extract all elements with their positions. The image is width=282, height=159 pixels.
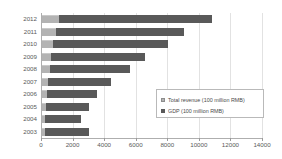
table-row (42, 65, 130, 73)
legend-label-revenue: Total revenue (100 million RMB) (168, 97, 245, 103)
table-row (42, 15, 212, 23)
legend-swatch-gdp-icon (161, 109, 165, 113)
y-axis-tick-label: 2003 (8, 128, 37, 135)
y-axis-tick-label: 2011 (8, 28, 37, 35)
table-row (42, 28, 184, 36)
table-row (42, 40, 168, 48)
gridline (262, 13, 263, 138)
bar-segment-revenue (42, 40, 53, 48)
x-axis-tick-label: 0 (26, 141, 56, 148)
y-axis-tick-label: 2012 (8, 15, 37, 22)
x-axis-tick-label: 4000 (89, 141, 119, 148)
y-axis-tick-label: 2008 (8, 65, 37, 72)
legend-label-gdp: GDP (100 million RMB) (168, 108, 224, 114)
table-row (42, 90, 97, 98)
y-axis-tick-label: 2005 (8, 103, 37, 110)
y-axis-tick-label: 2004 (8, 115, 37, 122)
x-axis-tick-label: 2000 (58, 141, 88, 148)
table-row (42, 103, 89, 111)
gridline (199, 13, 200, 138)
y-axis-tick-label: 2009 (8, 53, 37, 60)
x-axis-line (41, 138, 262, 139)
bar-segment-revenue (42, 28, 56, 36)
legend-item-revenue: Total revenue (100 million RMB) (161, 94, 259, 105)
bar-segment-gdp (59, 15, 212, 23)
y-axis-tick-label: 2007 (8, 78, 37, 85)
bar-segment-gdp (53, 40, 168, 48)
gridline (230, 13, 231, 138)
legend-item-gdp: GDP (100 million RMB) (161, 105, 259, 116)
y-axis-tick-label: 2006 (8, 90, 37, 97)
table-row (42, 78, 111, 86)
bar-segment-gdp (45, 128, 90, 136)
bar-segment-revenue (42, 15, 59, 23)
bar-chart: 02000400060008000100001200014000 2012201… (0, 0, 282, 159)
y-axis-tick-label: 2010 (8, 40, 37, 47)
bar-segment-gdp (56, 28, 184, 36)
table-row (42, 115, 81, 123)
bar-segment-revenue (42, 53, 51, 61)
x-axis-tick-label: 8000 (152, 141, 182, 148)
bar-segment-gdp (45, 115, 81, 123)
legend-swatch-revenue-icon (161, 98, 165, 102)
table-row (42, 128, 89, 136)
bar-segment-gdp (48, 78, 111, 86)
x-axis-tick-label: 12000 (215, 141, 245, 148)
x-axis-tick-label: 14000 (247, 141, 277, 148)
bar-segment-gdp (47, 90, 98, 98)
table-row (42, 53, 145, 61)
x-axis-tick-label: 6000 (121, 141, 151, 148)
x-axis-tick-label: 10000 (184, 141, 214, 148)
bar-segment-gdp (51, 53, 145, 61)
bar-segment-gdp (50, 65, 131, 73)
bar-segment-gdp (46, 103, 90, 111)
bar-segment-revenue (42, 65, 50, 73)
chart-legend: Total revenue (100 million RMB) GDP (100… (156, 89, 264, 118)
